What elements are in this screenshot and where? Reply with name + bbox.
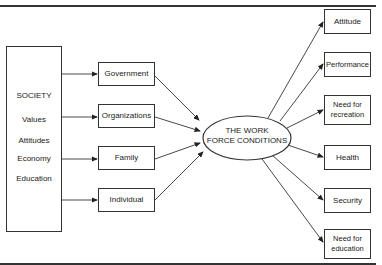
center-label: THE WORK FORCE CONDITIONS [203, 126, 291, 146]
influence-label: Family [115, 153, 139, 163]
influence-family: Family [98, 146, 155, 170]
outcome-label: Security [333, 196, 362, 206]
society-box: SOCIETY Values Attitudes Economy Educati… [6, 46, 62, 232]
outcome-label-line2: education [331, 244, 364, 254]
influence-organizations: Organizations [98, 104, 155, 128]
center-line1: THE WORK [203, 126, 291, 136]
center-line2: FORCE CONDITIONS [203, 136, 291, 146]
outcome-label-line1: Need for [331, 100, 364, 110]
influence-label: Individual [110, 195, 144, 205]
society-item-values: Values [7, 115, 61, 124]
outcome-need-for-recreation: Need for recreation [324, 95, 371, 125]
society-title: SOCIETY [7, 91, 61, 100]
outcome-label: Attitude [334, 17, 361, 27]
outcome-label: Performance [326, 60, 369, 70]
outcome-health: Health [324, 145, 371, 170]
outcome-label-line1: Need for [331, 234, 364, 244]
influence-individual: Individual [98, 188, 155, 212]
outcome-security: Security [324, 188, 371, 213]
outcome-attitude: Attitude [324, 9, 371, 34]
outcome-performance: Performance [324, 52, 371, 77]
outcome-label-line2: recreation [331, 110, 364, 120]
society-item-education: Education [7, 174, 61, 183]
outcome-need-for-education: Need for education [324, 229, 371, 259]
outcome-label: Health [336, 153, 359, 163]
influence-label: Organizations [102, 111, 151, 121]
influence-label: Government [104, 69, 148, 79]
influence-government: Government [98, 62, 155, 86]
society-item-attitudes: Attitudes [7, 136, 61, 145]
society-item-economy: Economy [7, 154, 61, 163]
